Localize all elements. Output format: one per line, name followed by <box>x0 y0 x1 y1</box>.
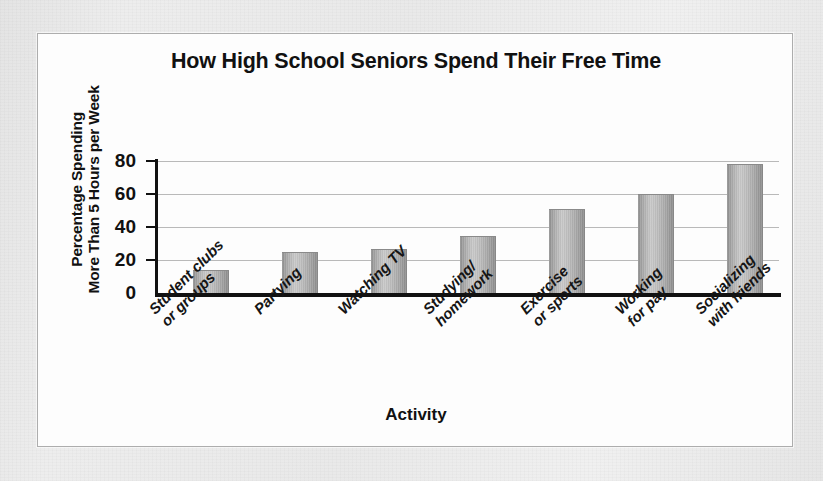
y-axis-title: Percentage Spending More Than 5 Hours pe… <box>68 79 103 299</box>
y-axis-line <box>155 159 158 296</box>
gridline-60 <box>156 194 779 195</box>
y-axis-title-line-2: More Than 5 Hours per Week <box>85 79 102 299</box>
x-axis-title: Activity <box>38 405 794 425</box>
gridline-80 <box>156 161 779 162</box>
y-axis-title-line-1: Percentage Spending <box>68 79 85 299</box>
plot-area: 80 60 40 20 0 Percentage Spending More T… <box>38 34 794 448</box>
chart-panel: How High School Seniors Spend Their Free… <box>37 33 793 447</box>
